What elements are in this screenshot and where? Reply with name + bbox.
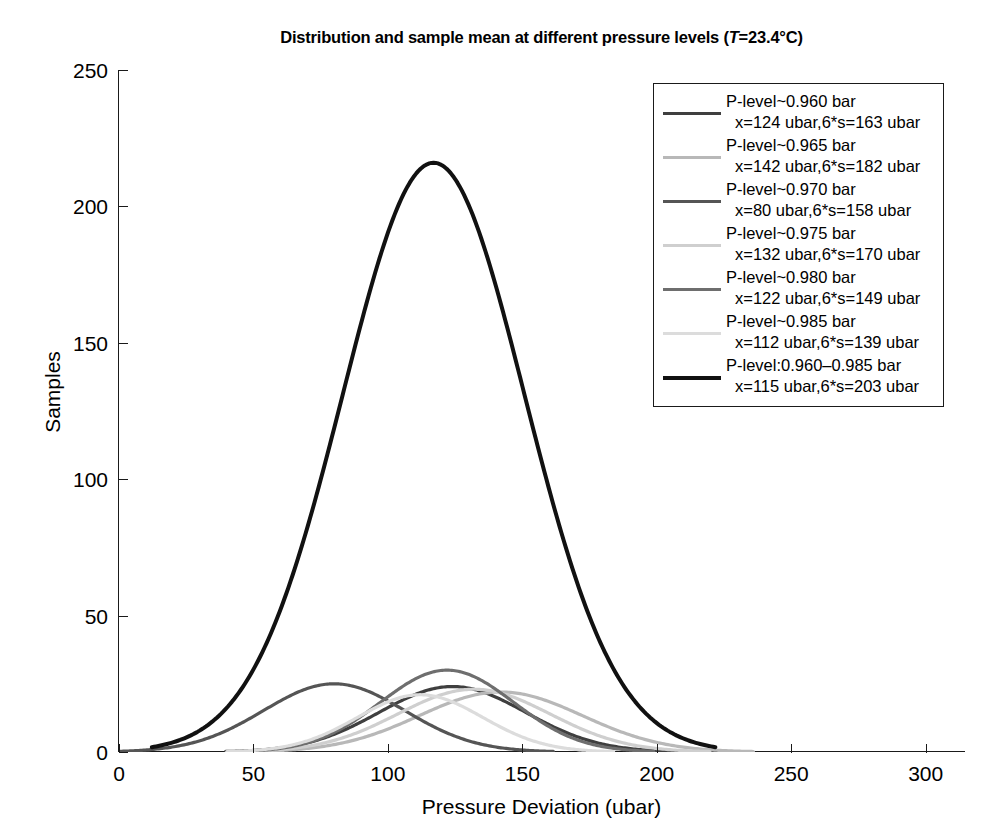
- y-axis-title: Samples: [41, 292, 65, 492]
- legend-label-block: P-level~0.980 barx=122 ubar,6*s=149 ubar: [726, 267, 940, 309]
- y-tick-label: 150: [73, 332, 108, 353]
- y-tick-label: 250: [73, 60, 108, 81]
- legend-entry[interactable]: P-level~0.975 barx=132 ubar,6*s=170 ubar: [654, 223, 943, 267]
- curve-series-5: [240, 670, 653, 751]
- x-axis-title: Pressure Deviation (ubar): [118, 795, 965, 819]
- legend-entry[interactable]: P-level~0.960 barx=124 ubar,6*s=163 ubar: [654, 91, 943, 135]
- chart-figure: Distribution and sample mean at differen…: [0, 0, 994, 835]
- y-tick-label: 0: [96, 742, 108, 763]
- x-tick-mark: [388, 744, 389, 753]
- x-tick-label: 0: [113, 763, 125, 784]
- chart-title-prefix: Distribution and sample mean at differen…: [280, 28, 729, 46]
- legend-label-stats: x=124 ubar,6*s=163 ubar: [726, 112, 940, 133]
- legend-label-block: P-level~0.975 barx=132 ubar,6*s=170 ubar: [726, 223, 940, 265]
- legend-entry[interactable]: P-level~0.965 barx=142 ubar,6*s=182 ubar: [654, 135, 943, 179]
- legend-color-swatch: [663, 376, 721, 380]
- x-tick-label: 200: [639, 763, 674, 784]
- x-tick-mark: [791, 744, 792, 753]
- legend-label-pressure: P-level~0.970 bar: [726, 179, 940, 200]
- y-tick-mark: [119, 616, 128, 617]
- y-tick-label: 200: [73, 196, 108, 217]
- x-tick-mark: [119, 744, 120, 753]
- x-tick-mark: [657, 744, 658, 753]
- x-tick-label: 150: [505, 763, 540, 784]
- x-tick-label: 250: [774, 763, 809, 784]
- legend-label-block: P-level~0.985 barx=112 ubar,6*s=139 ubar: [726, 311, 940, 353]
- legend-color-swatch: [663, 112, 721, 115]
- legend-label-pressure: P-level~0.975 bar: [726, 223, 940, 244]
- legend-label-pressure: P-level~0.980 bar: [726, 267, 940, 288]
- legend-label-stats: x=112 ubar,6*s=139 ubar: [726, 332, 940, 353]
- curve-series-1: [226, 687, 679, 752]
- legend-label-stats: x=115 ubar,6*s=203 ubar: [726, 376, 940, 397]
- legend-label-stats: x=142 ubar,6*s=182 ubar: [726, 156, 940, 177]
- y-tick-mark: [119, 479, 128, 480]
- legend-label-block: P-level~0.960 barx=124 ubar,6*s=163 ubar: [726, 91, 940, 133]
- y-tick-mark: [119, 206, 128, 207]
- chart-title: Distribution and sample mean at differen…: [118, 28, 965, 47]
- y-tick-mark: [119, 343, 128, 344]
- chart-legend: P-level~0.960 barx=124 ubar,6*s=163 ubar…: [653, 83, 944, 407]
- curve-series-7: [152, 163, 715, 747]
- chart-title-suffix: =23.4°C): [739, 28, 803, 46]
- x-tick-label: 300: [908, 763, 943, 784]
- y-tick-label: 50: [85, 605, 108, 626]
- legend-color-swatch: [663, 288, 721, 291]
- y-tick-mark: [119, 70, 128, 71]
- legend-label-block: P-level:0.960–0.985 barx=115 ubar,6*s=20…: [726, 355, 940, 397]
- legend-label-stats: x=80 ubar,6*s=158 ubar: [726, 200, 940, 221]
- x-tick-mark: [522, 744, 523, 753]
- legend-color-swatch: [663, 200, 721, 203]
- legend-label-stats: x=122 ubar,6*s=149 ubar: [726, 288, 940, 309]
- legend-label-block: P-level~0.965 barx=142 ubar,6*s=182 ubar: [726, 135, 940, 177]
- legend-entry[interactable]: P-level~0.985 barx=112 ubar,6*s=139 ubar: [654, 311, 943, 355]
- y-tick-label: 100: [73, 469, 108, 490]
- legend-label-block: P-level~0.970 barx=80 ubar,6*s=158 ubar: [726, 179, 940, 221]
- legend-label-stats: x=132 ubar,6*s=170 ubar: [726, 244, 940, 265]
- x-tick-label: 100: [370, 763, 405, 784]
- legend-color-swatch: [663, 156, 721, 159]
- legend-entry[interactable]: P-level~0.970 barx=80 ubar,6*s=158 ubar: [654, 179, 943, 223]
- x-tick-mark: [926, 744, 927, 753]
- x-tick-label: 50: [242, 763, 265, 784]
- legend-entry[interactable]: P-level:0.960–0.985 barx=115 ubar,6*s=20…: [654, 355, 943, 399]
- legend-color-swatch: [663, 244, 721, 247]
- legend-label-pressure: P-level:0.960–0.985 bar: [726, 355, 940, 376]
- x-tick-mark: [253, 744, 254, 753]
- legend-label-pressure: P-level~0.965 bar: [726, 135, 940, 156]
- legend-label-pressure: P-level~0.960 bar: [726, 91, 940, 112]
- legend-entry[interactable]: P-level~0.980 barx=122 ubar,6*s=149 ubar: [654, 267, 943, 311]
- y-tick-mark: [119, 752, 128, 753]
- legend-label-pressure: P-level~0.985 bar: [726, 311, 940, 332]
- chart-title-italic-var: T: [729, 28, 739, 46]
- legend-color-swatch: [663, 332, 721, 335]
